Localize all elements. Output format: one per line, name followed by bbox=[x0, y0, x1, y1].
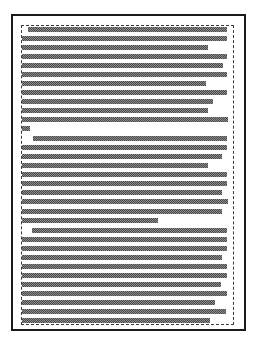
redacted-line bbox=[22, 54, 227, 59]
redacted-line bbox=[22, 264, 227, 269]
redacted-line bbox=[22, 218, 158, 223]
redacted-line bbox=[22, 90, 227, 95]
redacted-line bbox=[22, 154, 222, 159]
redacted-line bbox=[22, 237, 227, 242]
redacted-line bbox=[22, 282, 221, 287]
redacted-line bbox=[22, 273, 227, 278]
redacted-line bbox=[22, 199, 228, 204]
redacted-line bbox=[22, 72, 227, 77]
redacted-line bbox=[22, 309, 226, 314]
redacted-line bbox=[22, 45, 208, 50]
redacted-line bbox=[22, 126, 30, 131]
redacted-line bbox=[22, 63, 223, 68]
redacted-line bbox=[22, 117, 228, 122]
redacted-line bbox=[22, 81, 206, 86]
redacted-line bbox=[22, 99, 213, 104]
redacted-line bbox=[22, 145, 227, 150]
redacted-line bbox=[22, 172, 227, 177]
redacted-line bbox=[32, 228, 227, 233]
redacted-line bbox=[28, 27, 227, 32]
redacted-line bbox=[22, 36, 227, 41]
redacted-line bbox=[22, 246, 227, 251]
redacted-line bbox=[22, 255, 222, 260]
redacted-line bbox=[22, 318, 210, 323]
redacted-line bbox=[33, 136, 227, 141]
redacted-line bbox=[22, 163, 208, 168]
redacted-line bbox=[22, 190, 222, 195]
redacted-line bbox=[22, 300, 215, 305]
redacted-line bbox=[22, 209, 222, 214]
redacted-line bbox=[22, 291, 227, 296]
redacted-line bbox=[22, 181, 227, 186]
document-page bbox=[0, 0, 259, 345]
redacted-line bbox=[22, 108, 208, 113]
